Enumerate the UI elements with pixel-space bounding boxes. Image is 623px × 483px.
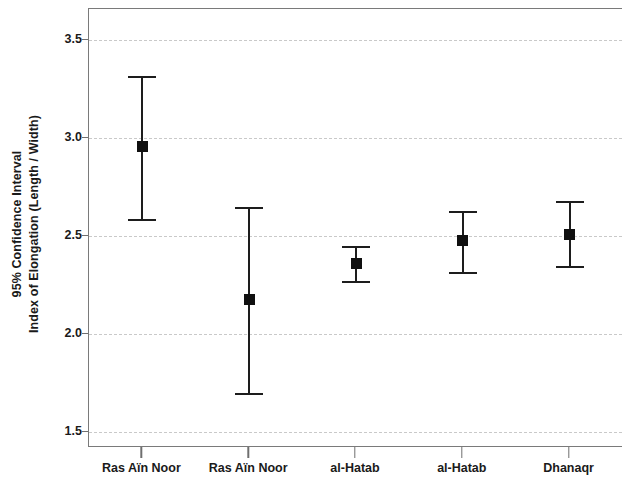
x-axis-tick-label: Dhanaqr [543,461,594,475]
error-bar [550,9,590,448]
error-bar-lower-cap [342,281,370,283]
error-bar-upper-cap [342,246,370,248]
mean-marker [244,294,255,305]
y-axis-title-line-2: Index of Elongation (Length / Width) [26,114,43,332]
error-bar-chart: 95% Confidence Interval Index of Elongat… [0,0,623,483]
mean-marker [137,141,148,152]
x-axis-tick-label: Ras Aïn Noor [209,461,288,475]
error-bar-upper-cap [235,207,263,209]
x-axis-tick-mark [568,447,569,458]
mean-marker [457,235,468,246]
y-axis-tick-label: 2.0 [44,326,82,340]
x-axis-tick-label: al-Hatab [437,461,486,475]
plot-area [88,8,622,447]
x-axis-tick-mark [461,447,462,458]
y-axis-title-line-1: 95% Confidence Interval [9,114,26,332]
error-bar [122,9,162,448]
error-bar-lower-cap [556,266,584,268]
mean-marker [351,258,362,269]
y-axis-tick-label: 2.5 [44,228,82,242]
y-axis-tick-label: 1.5 [44,424,82,438]
error-bar-upper-cap [556,201,584,203]
x-axis-tick-label: al-Hatab [330,461,379,475]
x-axis-tick-label: Ras Aïn Noor [102,461,181,475]
error-bar-lower-cap [449,272,477,274]
error-bar-lower-cap [235,393,263,395]
y-axis-tick-labels: 3.53.02.52.01.5 [44,0,82,483]
error-bar [229,9,269,448]
y-axis-tick-label: 3.5 [44,32,82,46]
y-axis-tick-label: 3.0 [44,130,82,144]
error-bar-upper-cap [128,76,156,78]
x-axis-tick-mark [354,447,355,458]
x-axis-tick-mark [141,447,142,458]
error-bar-upper-cap [449,211,477,213]
mean-marker [564,229,575,240]
error-bar-lower-cap [128,219,156,221]
error-bar [443,9,483,448]
error-bar [336,9,376,448]
x-axis-tick-mark [247,447,248,458]
